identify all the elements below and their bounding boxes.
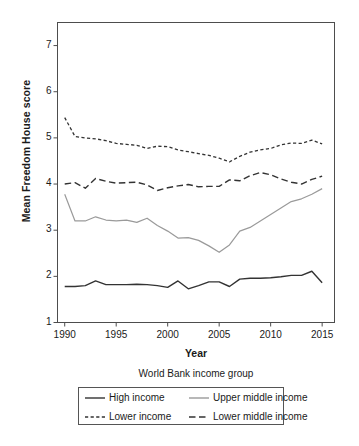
- x-axis-ticks: [65, 323, 322, 327]
- legend-item-lower-middle-income[interactable]: Lower middle income: [183, 411, 285, 422]
- series-lines: [65, 118, 322, 289]
- legend-line-swatch-dashed: [189, 413, 209, 421]
- legend-line-swatch-dotted: [85, 413, 105, 421]
- y-tick-label: 3: [38, 223, 52, 234]
- y-tick-label: 6: [38, 85, 52, 96]
- legend-item-label: Lower middle income: [213, 411, 308, 422]
- x-tick-label: 2015: [306, 329, 338, 340]
- page-bottom-cutoff-text: [6, 437, 346, 446]
- legend-box: High incomeUpper middle incomeLower inco…: [78, 387, 284, 425]
- series-line-high-income: [65, 271, 322, 289]
- legend-item-lower-income[interactable]: Lower income: [79, 411, 183, 422]
- series-line-lower-income: [65, 118, 322, 162]
- y-tick-label: 5: [38, 131, 52, 142]
- x-tick-label: 1990: [49, 329, 81, 340]
- chart-figure: 1234567199019952000200520102015 Mean Fre…: [0, 0, 359, 446]
- series-line-upper-middle-income: [65, 189, 322, 253]
- legend-item-label: Lower income: [109, 411, 171, 422]
- y-tick-label: 7: [38, 39, 52, 50]
- legend-items: High incomeUpper middle incomeLower inco…: [79, 388, 283, 424]
- line-chart-plot: [0, 0, 359, 446]
- legend-title: World Bank income group: [57, 368, 335, 379]
- x-tick-label: 2005: [203, 329, 235, 340]
- legend-line-swatch-solid: [85, 394, 105, 402]
- y-axis-title: Mean Freedom House score: [20, 41, 32, 261]
- y-tick-label: 1: [38, 316, 52, 327]
- legend-item-upper-middle-income[interactable]: Upper middle income: [183, 392, 285, 403]
- series-line-lower-middle-income: [65, 173, 322, 191]
- x-axis-title: Year: [57, 347, 335, 359]
- y-axis-ticks: [54, 46, 58, 323]
- y-tick-label: 2: [38, 269, 52, 280]
- legend-item-label: Upper middle income: [213, 392, 308, 403]
- x-tick-label: 2010: [255, 329, 287, 340]
- plot-frame: [58, 23, 335, 323]
- x-tick-label: 2000: [152, 329, 184, 340]
- legend-item-high-income[interactable]: High income: [79, 392, 183, 403]
- x-tick-label: 1995: [100, 329, 132, 340]
- legend-item-label: High income: [109, 392, 165, 403]
- legend-line-swatch-solid: [189, 394, 209, 402]
- y-tick-label: 4: [38, 177, 52, 188]
